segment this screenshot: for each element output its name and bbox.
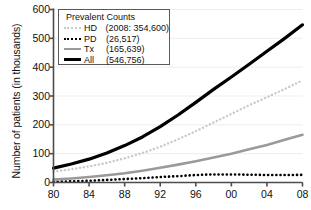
- legend-swatch-hd-icon: [64, 23, 81, 33]
- legend-item-tx: Tx (165,639): [64, 44, 169, 55]
- legend-title: Prevalent Counts: [64, 12, 169, 22]
- legend-swatch-all-icon: [64, 55, 81, 65]
- legend-label-hd: HD: [84, 23, 105, 33]
- legend-swatch-pd-icon: [64, 34, 81, 44]
- legend-label-tx: Tx: [84, 44, 106, 54]
- legend-value-hd: (2008: 354,600): [105, 23, 169, 33]
- legend-label-pd: PD: [84, 34, 106, 44]
- legend-swatch-tx-icon: [64, 44, 81, 54]
- legend-item-all: All (546,756): [64, 55, 169, 66]
- chart-legend: Prevalent Counts HD (2008: 354,600) PD (…: [58, 9, 170, 65]
- legend-item-pd: PD (26,517): [64, 34, 169, 45]
- legend-value-pd: (26,517): [106, 34, 140, 44]
- legend-value-tx: (165,639): [106, 44, 145, 54]
- legend-item-hd: HD (2008: 354,600): [64, 23, 169, 34]
- legend-value-all: (546,756): [106, 55, 145, 65]
- legend-label-all: All: [84, 55, 106, 65]
- chart-figure: Number of patients (in thousands) 600500…: [0, 0, 311, 210]
